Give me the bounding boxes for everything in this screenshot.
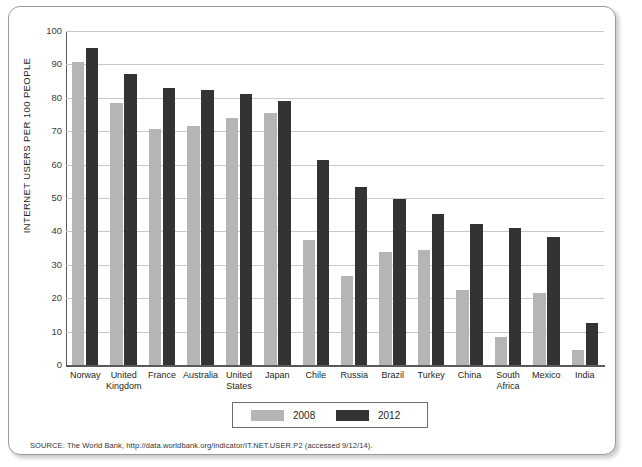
figure-container: INTERNET USERS PER 100 PEOPLE 0102030405… <box>0 0 642 467</box>
legend-item-2012: 2012 <box>336 409 400 422</box>
bar-2008 <box>456 290 469 365</box>
bar-group <box>66 31 104 365</box>
bar-2012 <box>547 237 560 365</box>
bar-2008 <box>264 113 277 365</box>
y-axis-tick-label: 80 <box>36 93 62 103</box>
bar-2008 <box>379 252 392 365</box>
bar-2012 <box>432 214 445 365</box>
y-axis-tick-labels: 0102030405060708090100 <box>32 0 62 467</box>
bar-group <box>143 31 181 365</box>
bar-2008 <box>533 293 546 365</box>
x-axis-line <box>66 365 605 367</box>
bar-group <box>181 31 219 365</box>
bar-group <box>258 31 296 365</box>
bar-group <box>220 31 258 365</box>
y-axis-tick-label: 70 <box>36 126 62 136</box>
legend-swatch-2012-icon <box>336 410 369 421</box>
bar-group <box>412 31 450 365</box>
y-axis-tick-label: 30 <box>36 260 62 270</box>
y-axis-title: INTERNET USERS PER 100 PEOPLE <box>21 0 32 296</box>
bar-2008 <box>418 250 431 365</box>
y-axis-tick-label: 40 <box>36 226 62 236</box>
y-axis-tick-label: 90 <box>36 59 62 69</box>
bar-2008 <box>572 350 585 365</box>
y-axis-tick-label: 100 <box>36 26 62 36</box>
legend-label-2012: 2012 <box>378 410 400 421</box>
legend-swatch-2008-icon <box>251 410 284 421</box>
bar-2012 <box>124 74 137 365</box>
bar-2008 <box>110 103 123 365</box>
bar-2012 <box>163 88 176 365</box>
bar-2008 <box>226 118 239 365</box>
y-axis-tick-label: 0 <box>36 360 62 370</box>
bar-2008 <box>72 62 85 365</box>
chart-legend: 2008 2012 <box>232 402 428 428</box>
plot-area <box>66 31 604 365</box>
bar-2012 <box>355 187 368 365</box>
bar-2012 <box>317 160 330 365</box>
bar-2008 <box>187 126 200 365</box>
bar-2012 <box>201 90 214 365</box>
legend-label-2008: 2008 <box>293 410 315 421</box>
bar-group <box>373 31 411 365</box>
y-axis-tick-label: 60 <box>36 160 62 170</box>
bar-group <box>527 31 565 365</box>
bar-2012 <box>86 48 99 365</box>
y-axis-tick-label: 20 <box>36 293 62 303</box>
bar-group <box>450 31 488 365</box>
bar-2008 <box>495 337 508 365</box>
bar-2008 <box>341 276 354 366</box>
bar-group <box>104 31 142 365</box>
bar-2012 <box>509 228 522 365</box>
x-axis-label: India <box>555 370 615 381</box>
bar-2012 <box>240 94 253 365</box>
bar-2008 <box>303 240 316 365</box>
y-axis-tick-label: 50 <box>36 193 62 203</box>
bar-2012 <box>586 323 599 365</box>
bar-group <box>566 31 604 365</box>
bar-2008 <box>149 129 162 365</box>
bar-2012 <box>393 199 406 365</box>
bar-2012 <box>278 101 291 365</box>
legend-item-2008: 2008 <box>251 409 315 422</box>
y-axis-tick-label: 10 <box>36 327 62 337</box>
bar-group <box>297 31 335 365</box>
bar-2012 <box>470 224 483 365</box>
bar-group <box>335 31 373 365</box>
bar-group <box>489 31 527 365</box>
source-note: SOURCE: The World Bank, http://data.worl… <box>30 441 373 450</box>
